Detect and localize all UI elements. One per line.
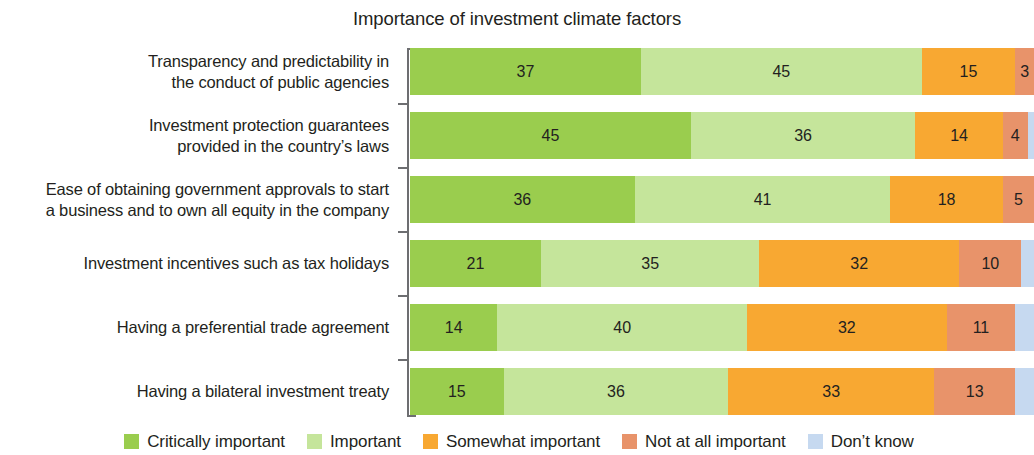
category-label-line: Having a preferential trade agreement [117, 317, 389, 338]
bar-segment [1015, 304, 1034, 351]
bar-segment: 37 [410, 48, 641, 95]
legend-swatch-icon [307, 434, 322, 449]
category-label-line: Having a bilateral investment treaty [137, 381, 389, 402]
bar-segment: 36 [504, 368, 729, 415]
bar-segment: 45 [641, 48, 922, 95]
legend-label: Critically important [147, 432, 285, 452]
bar-segment: 18 [890, 176, 1002, 223]
bar-segment: 41 [635, 176, 891, 223]
bar-segment: 35 [541, 240, 759, 287]
axis-tick [398, 167, 409, 169]
bar-segment: 33 [728, 368, 934, 415]
bar-segment: 15 [410, 368, 504, 415]
legend-swatch-icon [423, 434, 438, 449]
legend-item[interactable]: Critically important [124, 432, 285, 452]
stacked-bar: 3641185 [410, 176, 1034, 223]
chart-row: Transparency and predictability inthe co… [0, 48, 1034, 95]
legend-item[interactable]: Important [307, 432, 401, 452]
chart-legend: Critically importantImportantSomewhat im… [0, 428, 1034, 455]
category-label: Ease of obtaining government approvals t… [0, 176, 398, 223]
chart-row: Ease of obtaining government approvals t… [0, 176, 1034, 223]
bar-segment [1028, 112, 1034, 159]
axis-tick [398, 103, 409, 105]
axis-tick [398, 295, 409, 297]
legend-item[interactable]: Not at all important [622, 432, 786, 452]
legend-label: Important [330, 432, 401, 452]
category-label-line: the conduct of public agencies [172, 72, 390, 93]
stacked-bar: 4536144 [410, 112, 1034, 159]
category-label: Transparency and predictability inthe co… [0, 48, 398, 95]
bar-segment: 32 [759, 240, 959, 287]
bar-segment: 3 [1015, 48, 1034, 95]
category-label-line: provided in the country’s laws [177, 136, 389, 157]
bar-segment [1015, 368, 1034, 415]
legend-item[interactable]: Don’t know [808, 432, 914, 452]
plot-area: Transparency and predictability inthe co… [0, 45, 1034, 420]
bar-segment: 21 [410, 240, 541, 287]
bar-segment: 36 [691, 112, 916, 159]
category-label: Having a preferential trade agreement [0, 304, 398, 351]
axis-tick [398, 231, 409, 233]
category-label-line: a business and to own all equity in the … [46, 200, 389, 221]
legend-label: Somewhat important [446, 432, 600, 452]
category-label-line: Transparency and predictability in [148, 51, 389, 72]
stacked-bar: 15363313 [410, 368, 1034, 415]
bar-segment: 32 [747, 304, 947, 351]
category-label-line: Investment protection guarantees [149, 115, 389, 136]
bar-segment: 5 [1003, 176, 1034, 223]
category-label: Investment protection guaranteesprovided… [0, 112, 398, 159]
bar-segment: 45 [410, 112, 691, 159]
legend-swatch-icon [808, 434, 823, 449]
stacked-bar: 3745153 [410, 48, 1034, 95]
bar-segment: 14 [410, 304, 497, 351]
stacked-bar: 21353210 [410, 240, 1034, 287]
stacked-bar: 14403211 [410, 304, 1034, 351]
chart-title: Importance of investment climate factors [0, 8, 1034, 30]
bar-segment: 10 [959, 240, 1021, 287]
bar-segment: 36 [410, 176, 635, 223]
bar-segment: 11 [947, 304, 1016, 351]
axis-cap-bottom [407, 415, 416, 417]
bar-segment: 40 [497, 304, 747, 351]
axis-tick [398, 359, 409, 361]
chart-row: Having a bilateral investment treaty1536… [0, 368, 1034, 415]
legend-item[interactable]: Somewhat important [423, 432, 600, 452]
category-label-line: Ease of obtaining government approvals t… [46, 179, 389, 200]
bar-segment: 15 [922, 48, 1016, 95]
legend-label: Not at all important [645, 432, 786, 452]
bar-segment: 4 [1003, 112, 1028, 159]
chart-row: Having a preferential trade agreement144… [0, 304, 1034, 351]
bar-segment [1021, 240, 1033, 287]
legend-label: Don’t know [831, 432, 914, 452]
category-label: Having a bilateral investment treaty [0, 368, 398, 415]
legend-swatch-icon [622, 434, 637, 449]
legend-swatch-icon [124, 434, 139, 449]
category-label-line: Investment incentives such as tax holida… [83, 253, 389, 274]
chart-container: Importance of investment climate factors… [0, 0, 1034, 455]
category-label: Investment incentives such as tax holida… [0, 240, 398, 287]
chart-row: Investment incentives such as tax holida… [0, 240, 1034, 287]
bar-segment: 13 [934, 368, 1015, 415]
chart-row: Investment protection guaranteesprovided… [0, 112, 1034, 159]
bar-segment: 14 [915, 112, 1002, 159]
